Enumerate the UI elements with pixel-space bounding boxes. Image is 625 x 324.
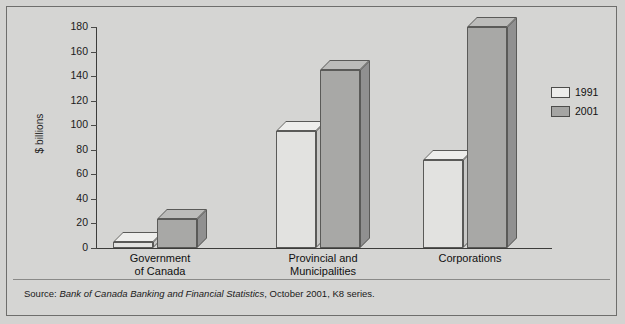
category-label-line: of Canada [100, 265, 220, 278]
y-tick-label-60: 60 [48, 167, 88, 179]
category-label-line: Government [100, 252, 220, 265]
source-divider [13, 279, 610, 280]
y-axis-line [96, 27, 97, 249]
legend-item-2001: 2001 [551, 105, 619, 117]
category-label-line: Municipalities [263, 265, 383, 278]
legend-label-2001: 2001 [575, 105, 598, 117]
y-tick-mark-180 [91, 27, 97, 28]
legend-swatch-1991 [551, 87, 570, 98]
bar-side-face [507, 17, 517, 248]
y-tick-label-120: 120 [48, 94, 88, 106]
bar-front-face [157, 219, 197, 248]
source-suffix: , October 2001, K8 series. [264, 288, 374, 299]
category-label-2: Provincial andMunicipalities [263, 252, 383, 278]
y-tick-label-180: 180 [48, 20, 88, 32]
bar-front-face [467, 27, 507, 248]
bar-2001-group-1 [157, 209, 207, 248]
bar-2001-group-3 [467, 17, 517, 248]
y-tick-mark-140 [91, 76, 97, 77]
category-label-1: Governmentof Canada [100, 252, 220, 278]
chart-legend: 1991 2001 [551, 86, 619, 124]
y-tick-mark-80 [91, 150, 97, 151]
y-tick-label-160: 160 [48, 45, 88, 57]
category-label-line: Provincial and [263, 252, 383, 265]
source-prefix: Source: [24, 288, 59, 299]
y-tick-label-80: 80 [48, 143, 88, 155]
source-note: Source: Bank of Canada Banking and Finan… [24, 288, 375, 299]
y-tick-mark-120 [91, 101, 97, 102]
y-tick-mark-40 [91, 199, 97, 200]
y-axis-label: $ billions [34, 89, 45, 179]
x-axis-line [96, 248, 552, 249]
legend-item-1991: 1991 [551, 86, 619, 98]
y-tick-label-100: 100 [48, 118, 88, 130]
y-tick-label-140: 140 [48, 69, 88, 81]
category-label-line: Corporations [410, 252, 530, 265]
y-tick-mark-0 [91, 248, 97, 249]
source-publication: Bank of Canada Banking and Financial Sta… [59, 288, 264, 299]
y-tick-mark-100 [91, 125, 97, 126]
bar-front-face [320, 70, 360, 248]
bar-front-face [423, 160, 463, 248]
y-tick-label-20: 20 [48, 216, 88, 228]
legend-label-1991: 1991 [575, 86, 598, 98]
y-tick-mark-20 [91, 223, 97, 224]
y-tick-mark-160 [91, 52, 97, 53]
y-tick-label-40: 40 [48, 192, 88, 204]
category-label-3: Corporations [410, 252, 530, 265]
bar-1991-group-3 [423, 150, 473, 248]
bar-side-face [360, 60, 370, 248]
bar-2001-group-2 [320, 60, 370, 248]
chart-figure: $ billions 020406080100120140160180 Gove… [0, 0, 625, 324]
y-tick-label-0: 0 [48, 241, 88, 253]
bar-front-face [276, 131, 316, 248]
bar-1991-group-2 [276, 121, 326, 248]
y-tick-mark-60 [91, 174, 97, 175]
legend-swatch-2001 [551, 106, 570, 117]
plot-area: $ billions 020406080100120140160180 Gove… [0, 0, 625, 324]
bar-1991-group-1 [113, 232, 163, 248]
bar-front-face [113, 242, 153, 248]
